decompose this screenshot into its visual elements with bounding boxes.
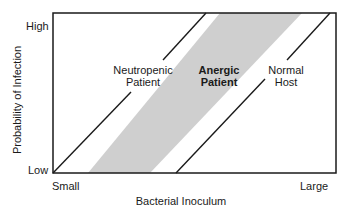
anergic-label-2: Patient [201, 76, 238, 88]
anergic-label-1: Anergic [199, 64, 240, 76]
y-axis-label: Probability of Infection [11, 46, 23, 154]
normal-label-2: Host [275, 76, 298, 88]
y-max-label: High [26, 20, 49, 32]
normal-label-1: Normal [268, 64, 303, 76]
x-axis-label: Bacterial Inoculum [136, 195, 227, 207]
neutropenic-label-2: Patient [126, 76, 160, 88]
y-min-label: Low [28, 164, 48, 176]
x-min-label: Small [52, 180, 80, 192]
x-max-label: Large [300, 180, 328, 192]
neutropenic-label-1: Neutropenic [113, 64, 172, 76]
anergic-band [88, 13, 302, 173]
